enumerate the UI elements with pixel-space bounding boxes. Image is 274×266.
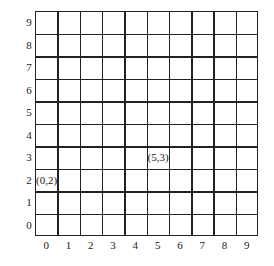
y-axis-label: 9 [24,16,34,28]
y-axis-label: 5 [24,106,34,118]
x-axis-label: 7 [196,239,208,251]
grid-horizontal-line [36,124,257,126]
x-axis-label: 9 [241,239,253,251]
grid-horizontal-line [36,214,257,216]
x-axis-label: 8 [219,239,231,251]
grid-horizontal-line [36,56,257,58]
grid-horizontal-line [36,79,257,81]
y-axis-label: 0 [24,219,34,231]
y-axis-label: 3 [24,151,34,163]
point-label: (0,2) [36,174,57,186]
point-label: (5,3) [148,151,169,163]
x-axis-label: 1 [62,239,74,251]
y-axis-label: 6 [24,84,34,96]
x-axis-label: 4 [129,239,141,251]
grid-horizontal-line [36,191,257,193]
x-axis-label: 5 [152,239,164,251]
y-axis-label: 8 [24,39,34,51]
grid-horizontal-line [36,169,257,171]
y-axis-label: 7 [24,61,34,73]
grid-horizontal-line [36,101,257,103]
grid-horizontal-line [36,146,257,148]
y-axis-label: 4 [24,129,34,141]
x-axis-label: 3 [107,239,119,251]
grid-horizontal-line [36,34,257,36]
y-axis-label: 1 [24,196,34,208]
y-axis-label: 2 [24,174,34,186]
coordinate-grid [35,11,258,236]
x-axis-label: 2 [85,239,97,251]
x-axis-label: 0 [40,239,52,251]
x-axis-label: 6 [174,239,186,251]
